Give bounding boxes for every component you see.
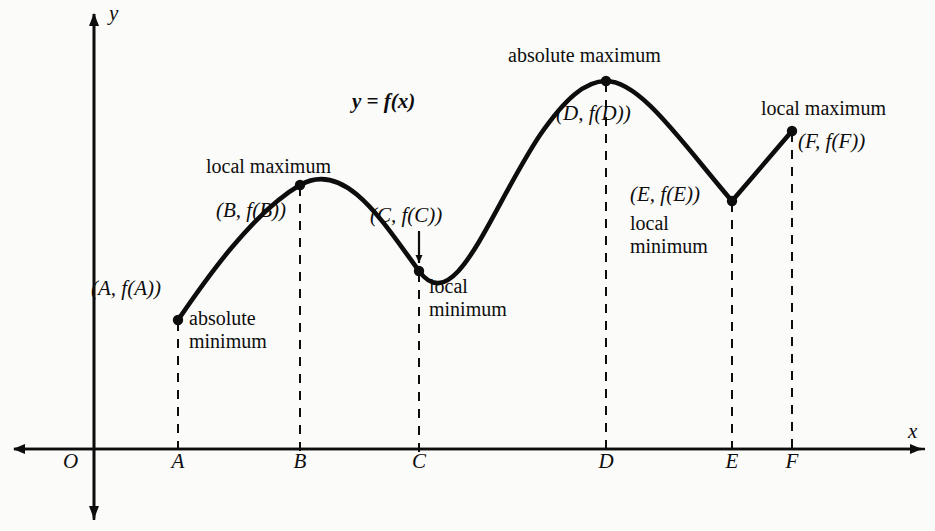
- point-F-coord-label: (F, f(F)): [798, 130, 865, 154]
- point-D-coord-label: (D, f(D)): [556, 102, 631, 126]
- function-equation-label: y = f(x): [352, 90, 415, 114]
- point-C-dot: [414, 266, 424, 276]
- point-A-caption-line1: absolute: [189, 307, 256, 329]
- point-E-dot: [727, 196, 737, 206]
- point-F-caption: local maximum: [761, 97, 886, 119]
- axis-tick-label-E: E: [717, 450, 747, 474]
- point-E-coord-label: (E, f(E)): [630, 183, 700, 207]
- point-C-caption-line2: minimum: [429, 298, 507, 320]
- axis-tick-label-A: A: [163, 450, 193, 474]
- point-B-dot: [295, 180, 305, 190]
- point-B-coord-label: (B, f(B)): [216, 199, 286, 223]
- extrema-figure: y x O A B C D E F y = f(x) (A, f(A)) abs…: [0, 0, 935, 531]
- axis-tick-label-F: F: [777, 450, 807, 474]
- point-E-caption-line1: local: [630, 212, 669, 234]
- point-D-dot: [601, 76, 611, 86]
- point-E-caption-line2: minimum: [630, 235, 708, 257]
- point-D-caption: absolute maximum: [508, 44, 661, 66]
- point-A-dot: [173, 315, 183, 325]
- y-axis-label: y: [109, 2, 118, 26]
- point-C-caption-line1: local: [429, 275, 468, 297]
- point-A-caption-line2: minimum: [189, 330, 267, 352]
- point-A-coord-label: (A, f(A)): [91, 277, 161, 301]
- point-B-caption: local maximum: [206, 155, 331, 177]
- drop-lines-group: [178, 83, 792, 452]
- point-F-dot: [787, 126, 797, 136]
- axis-tick-label-B: B: [285, 450, 315, 474]
- axis-tick-label-D: D: [591, 450, 621, 474]
- axis-tick-label-C: C: [404, 450, 434, 474]
- point-C-coord-label: (C, f(C)): [370, 204, 442, 228]
- x-axis-label: x: [908, 420, 917, 444]
- origin-label: O: [63, 450, 78, 474]
